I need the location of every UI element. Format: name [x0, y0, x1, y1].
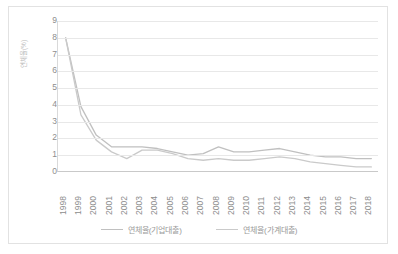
x-axis-tick-label: 2016: [333, 181, 344, 215]
y-axis-tick-label: 4: [41, 100, 57, 109]
legend-line-swatch-icon: [216, 229, 238, 230]
gridline: [58, 71, 378, 72]
gridline: [58, 38, 378, 39]
gridline: [58, 138, 378, 139]
gridline: [58, 155, 378, 156]
x-axis-tick-label: 2002: [119, 181, 130, 215]
chart-legend: 연체율(기업대출) 연체율(가계대출): [9, 219, 389, 239]
x-axis-tick-label: 2007: [195, 181, 206, 215]
x-axis-tick-label: 2009: [226, 181, 237, 215]
legend-line-swatch-icon: [101, 229, 123, 230]
x-axis-tick-label: 2003: [134, 181, 145, 215]
x-axis-tick-label: 2008: [211, 181, 222, 215]
x-axis-tick-label: 2006: [180, 181, 191, 215]
x-axis-tick-label: 2004: [149, 181, 160, 215]
series-line: [66, 38, 372, 159]
x-axis-tick-label: 2011: [256, 181, 267, 215]
series-line: [66, 38, 372, 167]
x-axis-tick-label: 2005: [165, 181, 176, 215]
y-axis-tick-label: 3: [41, 117, 57, 126]
plot-area: [57, 21, 378, 172]
y-axis-tick-labels: 9876543210: [27, 7, 57, 245]
y-axis-tick-label: 2: [41, 133, 57, 142]
series-lines: [58, 21, 379, 172]
x-axis-tick-label: 2018: [363, 181, 374, 215]
legend-item-household-loans[interactable]: 연체율(가계대출): [216, 224, 297, 235]
x-axis-tick-label: 2010: [241, 181, 252, 215]
y-axis-tick-label: 6: [41, 66, 57, 75]
gridline: [58, 105, 378, 106]
y-axis-tick-label: 8: [41, 33, 57, 42]
x-axis-tick-label: 2000: [88, 181, 99, 215]
y-axis-tick-label: 9: [41, 16, 57, 25]
gridline: [58, 55, 378, 56]
chart-container: 연체율(%) 9876543210 1998199920002001200220…: [8, 6, 388, 244]
x-axis-tick-label: 2015: [318, 181, 329, 215]
x-axis-tick-label: 2013: [287, 181, 298, 215]
x-axis-tick-labels: 1998199920002001200220032004200520062007…: [57, 173, 378, 215]
x-axis-tick-label: 2001: [104, 181, 115, 215]
x-axis-tick-label: 2012: [272, 181, 283, 215]
x-axis-tick-label: 2014: [302, 181, 313, 215]
y-axis-tick-label: 5: [41, 83, 57, 92]
gridline: [58, 88, 378, 89]
gridline: [58, 122, 378, 123]
legend-item-corporate-loans[interactable]: 연체율(기업대출): [101, 224, 182, 235]
x-axis-tick-label: 2017: [348, 181, 359, 215]
y-axis-tick-label: 7: [41, 50, 57, 59]
gridline: [58, 21, 378, 22]
x-axis-tick-label: 1998: [58, 181, 69, 215]
y-axis-tick-label: 1: [41, 150, 57, 159]
y-axis-tick-label: 0: [41, 167, 57, 176]
legend-item-label: 연체율(기업대출): [128, 224, 182, 235]
legend-item-label: 연체율(가계대출): [243, 224, 297, 235]
x-axis-tick-label: 1999: [73, 181, 84, 215]
